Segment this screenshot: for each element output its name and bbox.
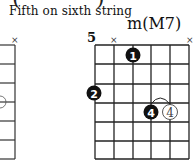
finger-dot-4-filled: 4 — [144, 105, 159, 120]
finger-dot-4-outline: 4 — [163, 105, 178, 121]
svg-text:4: 4 — [147, 107, 155, 120]
svg-text:2: 2 — [90, 88, 98, 101]
chord-diagram: 1 2 4 4 — [0, 0, 194, 166]
finger-dot-2: 2 — [87, 86, 102, 101]
finger-dot-1: 1 — [126, 48, 141, 63]
svg-text:1: 1 — [129, 50, 137, 63]
fretboard-grid — [95, 45, 189, 159]
svg-text:4: 4 — [166, 106, 174, 120]
